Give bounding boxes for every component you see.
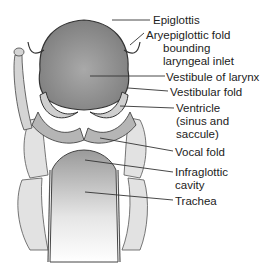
label-epiglottis: Epiglottis — [153, 14, 200, 26]
label-vestibule: Vestibule of larynx — [166, 71, 259, 83]
label-aryepiglottic-fold-2: bounding — [163, 42, 210, 54]
label-ventricle-3: saccule) — [176, 128, 219, 140]
label-ventricle-2: (sinus and — [176, 115, 229, 127]
label-ventricle: Ventricle — [176, 102, 220, 114]
label-vocal-fold: Vocal fold — [175, 146, 225, 158]
cartilage-left — [18, 118, 48, 250]
label-aryepiglottic-fold: Aryepiglottic fold — [146, 29, 230, 41]
label-aryepiglottic-fold-3: laryngeal inlet — [163, 55, 234, 67]
trachea-lumen — [50, 150, 118, 262]
label-vestibular-fold: Vestibular fold — [170, 86, 242, 98]
label-trachea: Trachea — [175, 195, 217, 207]
label-infraglottic-cavity-2: cavity — [175, 179, 204, 191]
label-infraglottic-cavity: Infraglottic — [175, 166, 228, 178]
vestibule-dome — [39, 20, 128, 110]
cartilage-right — [122, 118, 147, 250]
